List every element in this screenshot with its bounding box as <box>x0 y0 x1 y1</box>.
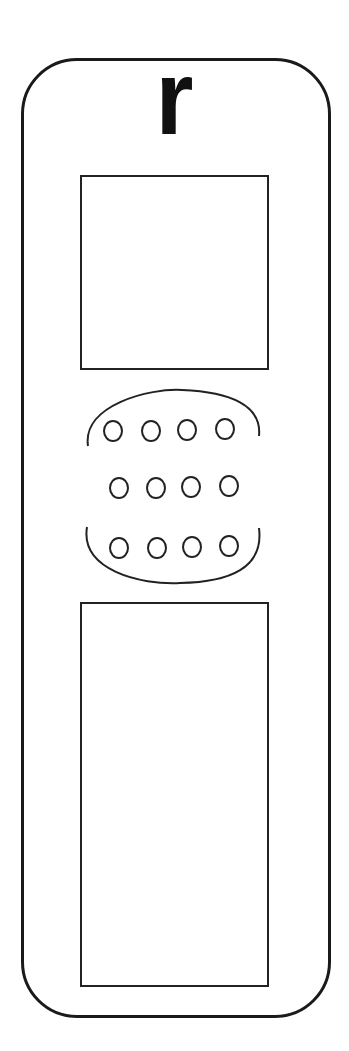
dot-circle <box>110 538 128 558</box>
top-bracket-arc <box>88 390 260 446</box>
dot-circle <box>104 421 122 441</box>
dot-circle <box>142 421 160 441</box>
dot-circle <box>178 420 196 440</box>
bottom-box <box>80 795 269 987</box>
dot-circle <box>148 538 166 558</box>
dot-circle <box>216 419 234 439</box>
dot-circle <box>220 536 238 556</box>
dot-circle <box>110 478 128 498</box>
dot-circle <box>183 537 201 557</box>
dot-circle <box>147 478 165 498</box>
dot-circle <box>220 476 238 496</box>
middle-box <box>80 602 269 797</box>
dot-circle <box>182 477 200 497</box>
